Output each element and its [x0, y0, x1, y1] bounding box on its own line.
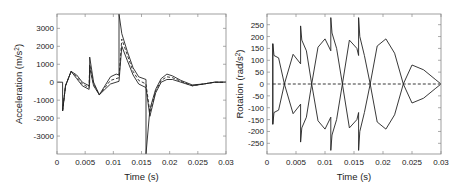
y-tick-label: 50	[255, 68, 264, 77]
y-tick-label: -1000	[34, 96, 55, 105]
series-upper-envelope	[273, 18, 441, 125]
series-lower-envelope	[273, 44, 441, 151]
x-tick-label: 0	[55, 158, 60, 167]
acceleration-chart: 00.0050.010.0150.020.0250.03300020001000…	[13, 14, 235, 182]
plot-area	[57, 14, 226, 154]
series-middle	[63, 39, 226, 113]
y-tick-label: -200	[248, 127, 265, 136]
y-axis-label: Rotation (rad/s2)	[234, 49, 246, 118]
x-tick-label: 0.02	[162, 158, 178, 167]
y-tick-label: 250	[251, 21, 265, 30]
plot-area	[273, 18, 441, 151]
y-tick-label: 0	[260, 80, 265, 89]
y-tick-label: -50	[252, 92, 264, 101]
y-tick-label: 0	[50, 78, 55, 87]
x-tick-label: 0.015	[344, 158, 365, 167]
x-axis-label: Time (s)	[337, 171, 371, 182]
y-tick-label: 150	[251, 44, 265, 53]
y-tick-label: -250	[248, 139, 265, 148]
y-tick-label: -100	[248, 104, 265, 113]
y-tick-label: 1000	[36, 60, 54, 69]
x-tick-label: 0.03	[218, 158, 234, 167]
x-tick-label: 0.03	[433, 158, 449, 167]
y-tick-label: 3000	[36, 24, 54, 33]
rotation-chart: 00.0050.010.0150.020.0250.03250200150100…	[234, 14, 450, 182]
x-tick-label: 0.015	[131, 158, 152, 167]
y-tick-label: 200	[251, 33, 265, 42]
y-tick-label: 2000	[36, 42, 54, 51]
y-tick-label: 100	[251, 56, 265, 65]
x-tick-label: 0.005	[286, 158, 307, 167]
x-tick-label: 0.01	[106, 158, 122, 167]
series-lower	[63, 46, 226, 116]
x-axis-label: Time (s)	[124, 171, 158, 182]
y-tick-label: -2000	[34, 114, 55, 123]
y-tick-label: -3000	[34, 132, 55, 141]
x-tick-label: 0.005	[75, 158, 96, 167]
x-tick-label: 0.025	[402, 158, 423, 167]
y-tick-label: -150	[248, 116, 265, 125]
x-tick-label: 0.01	[317, 158, 333, 167]
x-tick-label: 0.025	[188, 158, 209, 167]
y-axis-label: Acceleration (m/s2)	[13, 44, 25, 124]
figure: 00.0050.010.0150.020.0250.03300020001000…	[0, 0, 465, 183]
x-tick-label: 0.02	[375, 158, 391, 167]
x-tick-label: 0	[265, 158, 270, 167]
